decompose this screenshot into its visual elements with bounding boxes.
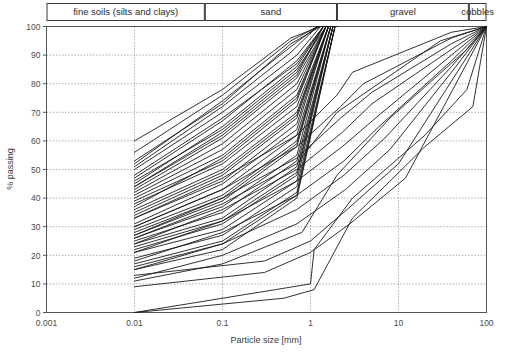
y-tick-label: 70	[31, 108, 41, 118]
x-tick-label: 0.01	[126, 318, 143, 328]
x-tick-label: 0.001	[36, 318, 58, 328]
x-tick-label: 0.1	[217, 318, 229, 328]
chart-canvas: fine soils (silts and clays)sandgravelco…	[0, 0, 513, 356]
band-label: cobbles	[461, 6, 494, 17]
x-axis-tick-labels: 0.0010.010.1110100	[36, 318, 494, 328]
data-curve	[135, 27, 337, 204]
y-tick-label: 50	[31, 165, 41, 175]
y-tick-label: 30	[31, 222, 41, 232]
y-tick-label: 80	[31, 79, 41, 89]
band-label: sand	[261, 6, 282, 17]
grid-lines	[47, 27, 487, 313]
band-label: fine soils (silts and clays)	[73, 6, 178, 17]
classification-band-sand: sand	[205, 4, 336, 21]
y-tick-label: 20	[31, 251, 41, 261]
classification-band-gravel: gravel	[337, 4, 468, 21]
y-axis-title: % passing	[5, 148, 15, 190]
x-tick-label: 10	[394, 318, 404, 328]
y-axis-ticks	[43, 27, 47, 313]
y-tick-label: 10	[31, 279, 41, 289]
soil-classification-bands: fine soils (silts and clays)sandgravelco…	[47, 4, 494, 21]
classification-band-fine: fine soils (silts and clays)	[47, 4, 204, 21]
y-tick-label: 100	[26, 22, 40, 32]
x-axis-title: Particle size [mm]	[230, 335, 301, 345]
y-axis-tick-labels: 0102030405060708090100	[26, 22, 40, 318]
x-tick-label: 100	[479, 318, 493, 328]
band-label: gravel	[390, 6, 416, 17]
y-tick-label: 90	[31, 50, 41, 60]
x-tick-label: 1	[308, 318, 313, 328]
y-tick-label: 60	[31, 136, 41, 146]
particle-size-distribution-chart: fine soils (silts and clays)sandgravelco…	[0, 0, 513, 356]
y-tick-label: 0	[36, 308, 41, 318]
y-tick-label: 40	[31, 193, 41, 203]
